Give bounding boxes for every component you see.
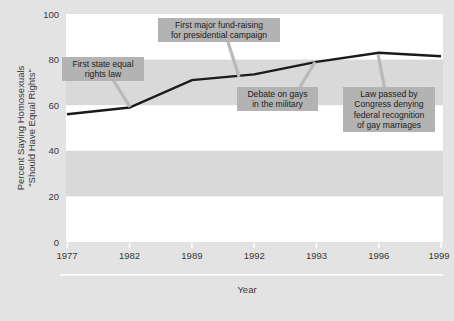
x-tickmark-1993 (316, 243, 318, 248)
x-tickmark-1977 (67, 243, 69, 248)
x-tickmark-1992 (253, 243, 255, 248)
callout-line-1: First state equal (72, 59, 133, 69)
chart-container: 100 80 60 40 20 0 Percent Saying Homosex… (0, 0, 454, 321)
callout-line-1: Law passed by (360, 89, 418, 99)
callout-line-2: Congress denying (354, 99, 423, 109)
callout-first-major-fund-raising[interactable]: First major fund-raising for presidentia… (158, 18, 280, 42)
callout-line-2: for presidential campaign (171, 30, 267, 40)
line-chart: 100 80 60 40 20 0 Percent Saying Homosex… (0, 0, 454, 321)
x-tick-label-1982: 1982 (119, 250, 140, 261)
x-tick-label-1977: 1977 (56, 250, 77, 261)
callout-line-1: First major fund-raising (175, 20, 263, 30)
callout-line-4: of gay marriages (357, 120, 421, 130)
x-tick-label-1992: 1992 (244, 250, 265, 261)
callout-debate-on-gays-in-the-military[interactable]: Debate on gays in the military (237, 87, 318, 111)
y-tick-label-20: 20 (48, 191, 59, 202)
callout-line-1: Debate on gays (247, 89, 307, 99)
y-axis-title-line2: "Should Have Equal Rights" (26, 69, 37, 187)
y-axis-title-line1: Percent Saying Homosexuals (15, 65, 26, 190)
x-axis-title: Year (237, 284, 256, 295)
callout-first-state-equal-rights-law[interactable]: First state equal rights law (62, 57, 144, 81)
x-tickmark-1996 (378, 243, 380, 248)
y-tick-label-100: 100 (43, 9, 59, 20)
band-20-40 (66, 151, 443, 197)
y-tick-label-80: 80 (48, 54, 59, 65)
x-tick-label-1999: 1999 (428, 250, 449, 261)
y-axis-title: Percent Saying Homosexuals "Should Have … (15, 65, 37, 190)
callout-law-passed-by-congress[interactable]: Law passed by Congress denying federal r… (343, 87, 435, 132)
x-tick-label-1996: 1996 (368, 250, 389, 261)
y-tick-label-40: 40 (48, 145, 59, 156)
y-tick-label-0: 0 (54, 237, 59, 248)
x-tick-label-1989: 1989 (181, 250, 202, 261)
callout-line-2: in the military (252, 99, 303, 109)
x-tick-label-1993: 1993 (306, 250, 327, 261)
x-tickmark-1989 (191, 243, 193, 248)
x-tickmark-1999 (440, 243, 442, 248)
callout-line-3: federal recognition (354, 110, 425, 120)
y-tick-label-60: 60 (48, 100, 59, 111)
callout-line-2: rights law (85, 69, 122, 79)
x-axis-rule (60, 274, 443, 276)
x-tickmark-1982 (129, 243, 131, 248)
